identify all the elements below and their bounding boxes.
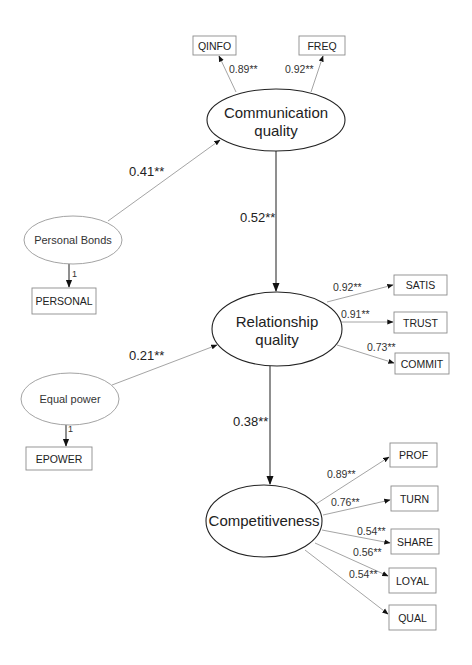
indicator-label: QINFO — [198, 40, 231, 52]
indicator-label: LOYAL — [396, 575, 429, 587]
latent-relationship-quality: Relationship quality — [212, 292, 342, 366]
indicator-freq: FREQ — [299, 36, 345, 55]
coef-comp-loyal: 0.56** — [353, 546, 382, 558]
indicator-label: SHARE — [397, 536, 433, 548]
path-equal-power-to-relationship — [112, 345, 217, 385]
coef-comp-prof: 0.89** — [327, 468, 356, 480]
latent-label: quality — [255, 331, 299, 348]
indicator-satis: SATIS — [394, 275, 447, 295]
loading-comp-qual — [305, 550, 388, 614]
path-personal-bonds-to-communication — [108, 140, 220, 221]
indicator-epower: EPOWER — [26, 447, 92, 470]
sem-path-diagram: Communication quality Relationship quali… — [0, 0, 472, 665]
latent-label: Competitiveness — [209, 512, 320, 529]
latent-equal-power: Equal power — [21, 373, 119, 425]
indicator-share: SHARE — [391, 529, 439, 554]
coef-equal-power-to-relationship: 0.21** — [129, 348, 164, 363]
indicator-qual: QUAL — [389, 605, 436, 630]
indicator-prof: PROF — [390, 443, 437, 467]
indicator-trust: TRUST — [394, 312, 447, 333]
indicator-commit: COMMIT — [395, 353, 449, 374]
coef-rel-satis: 0.92** — [333, 281, 362, 293]
coef-rel-trust: 0.91** — [341, 308, 370, 320]
indicator-label: QUAL — [398, 612, 427, 624]
coef-comm-qinfo: 0.89** — [229, 63, 258, 75]
indicator-qinfo: QINFO — [193, 36, 236, 55]
coef-pb-personal: 1 — [72, 269, 77, 279]
indicator-loyal: LOYAL — [389, 568, 436, 593]
indicator-label: COMMIT — [401, 358, 444, 370]
indicator-label: TURN — [400, 493, 429, 505]
indicator-turn: TURN — [391, 486, 438, 511]
coef-comm-freq: 0.92** — [285, 63, 314, 75]
latent-label: Equal power — [39, 393, 100, 405]
coef-communication-to-relationship: 0.52** — [240, 210, 275, 225]
coef-comp-turn: 0.76** — [331, 496, 360, 508]
indicator-personal: PERSONAL — [32, 288, 96, 314]
latent-competitiveness: Competitiveness — [206, 485, 322, 557]
coef-personal-bonds-to-communication: 0.41** — [129, 164, 164, 179]
coef-comp-share: 0.54** — [357, 525, 386, 537]
latent-label: Communication — [224, 104, 328, 121]
indicator-label: FREQ — [307, 40, 336, 52]
indicator-label: PERSONAL — [35, 295, 92, 307]
latent-label: Relationship — [236, 313, 319, 330]
coef-comp-qual: 0.54** — [349, 568, 378, 580]
indicator-label: TRUST — [403, 317, 439, 329]
indicator-label: SATIS — [406, 279, 436, 291]
latent-communication-quality: Communication quality — [207, 89, 345, 151]
latent-label: Personal Bonds — [34, 234, 112, 246]
indicator-label: EPOWER — [36, 453, 83, 465]
indicator-label: PROF — [399, 449, 428, 461]
latent-label: quality — [254, 122, 298, 139]
latent-personal-bonds: Personal Bonds — [24, 216, 122, 264]
coef-rel-commit: 0.73** — [367, 341, 396, 353]
coef-relationship-to-competitiveness: 0.38** — [233, 414, 268, 429]
coef-ep-epower: 1 — [68, 424, 73, 434]
